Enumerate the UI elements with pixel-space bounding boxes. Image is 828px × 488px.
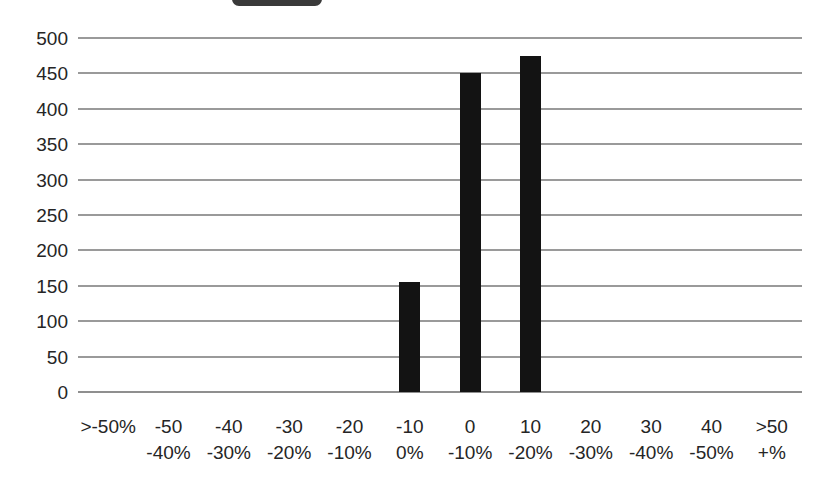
y-axis-tick-label: 250 [6,206,68,225]
gridline [78,285,802,287]
y-axis-tick-label: 50 [6,347,68,366]
bar [520,56,541,392]
y-axis-tick-label: 400 [6,99,68,118]
gridline [78,108,802,110]
y-axis-tick-label: 100 [6,312,68,331]
bar-chart: 500450400350300250200150100500 >-50%-50-… [0,0,828,488]
y-axis-tick-label: 500 [6,29,68,48]
gridline [78,179,802,181]
x-axis-tick-line-1: >50 [735,414,809,440]
x-axis: >-50%-50-40%-40-30%-30-20%-20-10%-100%0-… [78,414,802,480]
bar [460,73,481,392]
x-axis-tick-line-2: +% [735,440,809,466]
gridline [78,72,802,74]
bar [399,282,420,392]
legend-color-swatch [232,0,322,6]
gridline [78,143,802,145]
chart-legend [0,0,828,12]
y-axis-tick-label: 200 [6,241,68,260]
y-axis-tick-label: 300 [6,170,68,189]
x-axis-tick-label: >50+% [735,414,809,465]
gridline [78,356,802,358]
y-axis-tick-label: 350 [6,135,68,154]
y-axis-tick-label: 150 [6,276,68,295]
gridline [78,249,802,251]
plot-area [78,38,802,392]
y-axis: 500450400350300250200150100500 [0,38,68,392]
gridline [78,320,802,322]
gridline [78,391,802,393]
gridline [78,37,802,39]
y-axis-tick-label: 450 [6,64,68,83]
y-axis-tick-label: 0 [6,383,68,402]
gridline [78,214,802,216]
